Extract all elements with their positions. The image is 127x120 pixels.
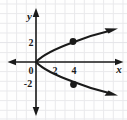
- graph-background: [0, 0, 127, 120]
- origin-label: 0: [29, 65, 34, 76]
- x-tick-label-2: 2: [53, 65, 58, 76]
- marked-point-4-2: [70, 38, 77, 45]
- x-axis-label: x: [115, 63, 122, 75]
- y-axis-label: y: [25, 10, 32, 22]
- x-tick-label-4: 4: [72, 65, 77, 76]
- y-tick-label-2: 2: [29, 37, 34, 48]
- marked-point-4-neg2: [70, 81, 77, 88]
- parabola-graph-figure: y x 0 2 4 2 -2: [0, 0, 127, 120]
- graph-canvas: y x 0 2 4 2 -2: [0, 0, 127, 120]
- y-tick-label-neg2: -2: [24, 78, 32, 89]
